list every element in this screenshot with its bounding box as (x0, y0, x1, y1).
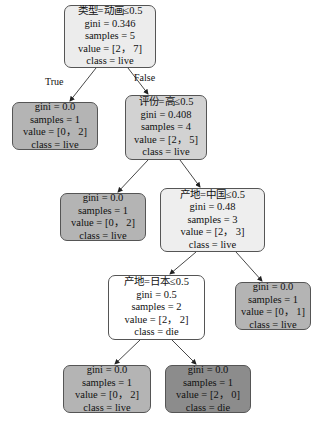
tree-leaf: gini = 0.0 samples = 1 value = [0， 2] cl… (60, 193, 146, 241)
node-value: value = [2， 2] (109, 314, 204, 327)
node-gini: gini = 0.0 (61, 192, 145, 205)
node-gini: gini = 0.48 (161, 201, 264, 214)
node-split: 评份=高≤0.5 (126, 96, 206, 109)
node-gini: gini = 0.0 (166, 364, 250, 377)
node-samples: samples = 1 (236, 294, 310, 307)
node-value: value = [0， 2] (61, 217, 145, 230)
node-samples: samples = 3 (161, 214, 264, 227)
node-samples: samples = 1 (64, 377, 150, 390)
node-value: value = [0， 1] (236, 306, 310, 319)
node-split: 类型=动画≤0.5 (65, 5, 155, 18)
node-class: class = live (126, 146, 206, 159)
node-value: value = [2， 0] (166, 389, 250, 402)
node-samples: samples = 1 (166, 377, 250, 390)
node-gini: gini = 0.408 (126, 109, 206, 122)
node-samples: samples = 1 (61, 205, 145, 218)
node-gini: gini = 0.0 (236, 281, 310, 294)
tree-node-root: 类型=动画≤0.5 gini = 0.346 samples = 5 value… (64, 5, 156, 68)
node-samples: samples = 1 (13, 114, 97, 127)
node-value: value = [2， 7] (65, 43, 155, 56)
node-gini: gini = 0.0 (13, 101, 97, 114)
node-class: class = die (166, 402, 250, 415)
node-value: value = [2， 3] (161, 226, 264, 239)
tree-leaf: gini = 0.0 samples = 1 value = [0， 2] cl… (12, 102, 98, 150)
node-samples: samples = 2 (109, 301, 204, 314)
node-class: class = die (109, 326, 204, 339)
node-class: class = live (161, 239, 264, 252)
tree-edges (0, 0, 317, 428)
edge-label-true: True (45, 76, 64, 87)
tree-leaf: gini = 0.0 samples = 1 value = [2， 0] cl… (165, 365, 251, 413)
node-samples: samples = 4 (126, 121, 206, 134)
tree-node-origin-china: 产地=中国≤0.5 gini = 0.48 samples = 3 value … (160, 188, 265, 252)
edge-label-false: False (134, 72, 155, 83)
node-class: class = live (61, 230, 145, 243)
tree-node-rating: 评份=高≤0.5 gini = 0.408 samples = 4 value … (125, 95, 207, 160)
node-split: 产地=日本≤0.5 (109, 276, 204, 289)
node-class: class = live (236, 319, 310, 332)
tree-leaf: gini = 0.0 samples = 1 value = [0， 2] cl… (63, 365, 151, 413)
node-gini: gini = 0.346 (65, 18, 155, 31)
node-value: value = [0， 2] (64, 389, 150, 402)
tree-leaf: gini = 0.0 samples = 1 value = [0， 1] cl… (235, 282, 311, 330)
node-gini: gini = 0.0 (64, 364, 150, 377)
node-samples: samples = 5 (65, 30, 155, 43)
node-gini: gini = 0.5 (109, 289, 204, 302)
tree-node-origin-japan: 产地=日本≤0.5 gini = 0.5 samples = 2 value =… (108, 275, 205, 340)
node-class: class = live (13, 139, 97, 152)
node-class: class = live (65, 55, 155, 68)
node-value: value = [2， 5] (126, 134, 206, 147)
node-class: class = live (64, 402, 150, 415)
node-value: value = [0， 2] (13, 126, 97, 139)
node-split: 产地=中国≤0.5 (161, 189, 264, 202)
